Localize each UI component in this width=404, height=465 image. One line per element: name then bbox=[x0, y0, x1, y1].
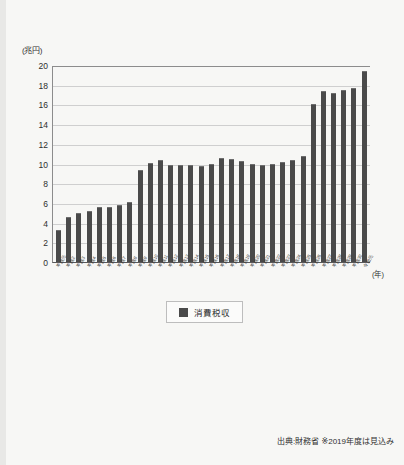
bar bbox=[76, 213, 81, 262]
bar bbox=[351, 88, 356, 262]
y-axis-tick-label: 10 bbox=[8, 160, 48, 170]
bar-series bbox=[53, 66, 370, 262]
y-axis-tick-label: 18 bbox=[8, 81, 48, 91]
y-axis-tick-label: 0 bbox=[8, 258, 48, 268]
bar bbox=[311, 104, 316, 262]
x-axis-unit-label: (年) bbox=[372, 268, 384, 279]
y-axis-unit-label: (兆円) bbox=[22, 44, 42, 55]
bar bbox=[158, 160, 163, 262]
bar bbox=[341, 90, 346, 262]
chart-legend: 消費税収 bbox=[166, 301, 243, 323]
y-axis-tick-label: 14 bbox=[8, 120, 48, 130]
bar bbox=[168, 165, 173, 262]
x-axis-tick-labels: 平成元平成2平成3平成4平成5平成6平成7平成8平成9平成10平成11平成12平… bbox=[52, 264, 370, 290]
y-axis-tick-label: 20 bbox=[8, 61, 48, 71]
bar bbox=[127, 202, 132, 262]
source-note: 出典:財務省 ※2019年度は見込み bbox=[277, 435, 394, 446]
y-axis-tick-label: 16 bbox=[8, 100, 48, 110]
bar bbox=[188, 165, 193, 262]
bar bbox=[301, 156, 306, 262]
bar bbox=[219, 158, 224, 262]
y-axis-tick-label: 8 bbox=[8, 179, 48, 189]
plot-area bbox=[52, 66, 370, 263]
bar bbox=[209, 164, 214, 263]
bar bbox=[362, 71, 367, 262]
bar bbox=[178, 165, 183, 262]
bar bbox=[229, 159, 234, 262]
bar bbox=[260, 165, 265, 262]
bar bbox=[331, 93, 336, 262]
bar bbox=[199, 166, 204, 262]
bar bbox=[107, 207, 112, 262]
bar bbox=[97, 207, 102, 262]
y-axis-tick-label: 6 bbox=[8, 199, 48, 209]
y-axis-tick-label: 2 bbox=[8, 238, 48, 248]
bar bbox=[87, 211, 92, 262]
bar bbox=[270, 164, 275, 263]
bar bbox=[138, 170, 143, 262]
legend-label: 消費税収 bbox=[194, 306, 230, 318]
bar bbox=[250, 164, 255, 263]
bar bbox=[280, 162, 285, 262]
bar bbox=[117, 205, 122, 262]
consumption-tax-revenue-chart: (兆円) 02468101214161820 平成元平成2平成3平成4平成5平成… bbox=[0, 0, 404, 340]
y-axis-tick-label: 12 bbox=[8, 140, 48, 150]
bar bbox=[290, 160, 295, 262]
bar bbox=[148, 163, 153, 262]
bar bbox=[321, 91, 326, 262]
y-axis-tick-label: 4 bbox=[8, 219, 48, 229]
bar bbox=[239, 161, 244, 262]
legend-swatch-icon bbox=[179, 308, 188, 317]
